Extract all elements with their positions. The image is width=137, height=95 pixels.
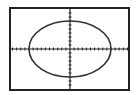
ellipse-plot — [0, 0, 137, 95]
